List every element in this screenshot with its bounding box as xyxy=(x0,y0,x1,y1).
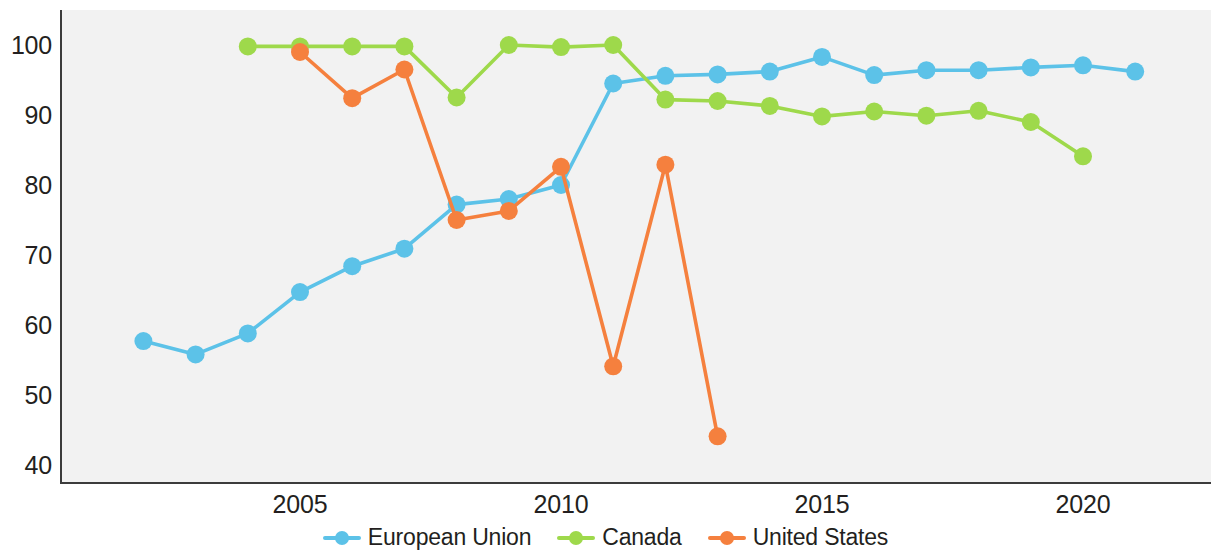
data-point xyxy=(1022,113,1040,131)
data-point xyxy=(343,257,361,275)
legend-item[interactable]: United States xyxy=(708,524,888,551)
data-point xyxy=(343,89,361,107)
data-point xyxy=(709,65,727,83)
line-chart: 100908070605040 European UnionCanadaUnit… xyxy=(0,0,1211,560)
data-point xyxy=(395,37,413,55)
chart-series-layer xyxy=(0,0,1211,560)
series-canada xyxy=(239,36,1092,165)
legend-item[interactable]: Canada xyxy=(557,524,681,551)
series-european-union xyxy=(134,48,1144,364)
data-point xyxy=(970,61,988,79)
data-point xyxy=(1074,147,1092,165)
data-point xyxy=(709,92,727,110)
data-point xyxy=(239,37,257,55)
y-axis-tick-labels: 100908070605040 xyxy=(0,0,52,560)
data-point xyxy=(813,48,831,66)
legend-swatch-icon xyxy=(557,530,595,546)
data-point xyxy=(343,37,361,55)
data-point xyxy=(552,158,570,176)
x-axis-tick-label: 2005 xyxy=(273,490,328,519)
data-point xyxy=(865,66,883,84)
x-axis-line xyxy=(60,482,1211,484)
data-point xyxy=(448,89,466,107)
chart-legend: European UnionCanadaUnited States xyxy=(0,524,1211,551)
x-axis-tick-label: 2015 xyxy=(795,490,850,519)
data-point xyxy=(604,36,622,54)
data-point xyxy=(395,61,413,79)
series-line xyxy=(143,57,1135,355)
data-point xyxy=(604,75,622,93)
data-point xyxy=(656,67,674,85)
data-point xyxy=(1126,63,1144,81)
data-point xyxy=(1074,56,1092,74)
x-axis-tick-label: 2020 xyxy=(1056,490,1111,519)
data-point xyxy=(917,107,935,125)
data-point xyxy=(239,324,257,342)
series-line xyxy=(300,52,718,436)
data-point xyxy=(500,202,518,220)
data-point xyxy=(187,345,205,363)
y-axis-tick-label: 100 xyxy=(2,31,52,60)
y-axis-tick-label: 70 xyxy=(2,241,52,270)
data-point xyxy=(970,102,988,120)
legend-item-label: European Union xyxy=(368,524,531,551)
data-point xyxy=(865,103,883,121)
data-point xyxy=(291,283,309,301)
x-axis-tick-label: 2010 xyxy=(534,490,589,519)
series-group xyxy=(134,36,1144,445)
data-point xyxy=(500,36,518,54)
y-axis-tick-label: 80 xyxy=(2,171,52,200)
legend-item-label: United States xyxy=(753,524,888,551)
data-point xyxy=(656,91,674,109)
legend-item-label: Canada xyxy=(602,524,681,551)
y-axis-tick-label: 40 xyxy=(2,451,52,480)
data-point xyxy=(552,38,570,56)
data-point xyxy=(656,156,674,174)
data-point xyxy=(134,332,152,350)
legend-swatch-icon xyxy=(323,530,361,546)
data-point xyxy=(395,240,413,258)
data-point xyxy=(709,427,727,445)
y-axis-tick-label: 90 xyxy=(2,101,52,130)
data-point xyxy=(1022,58,1040,76)
data-point xyxy=(761,97,779,115)
data-point xyxy=(917,61,935,79)
data-point xyxy=(761,63,779,81)
legend-swatch-icon xyxy=(708,530,746,546)
data-point xyxy=(813,107,831,125)
data-point xyxy=(291,43,309,61)
y-axis-line xyxy=(60,10,62,484)
y-axis-tick-label: 50 xyxy=(2,381,52,410)
data-point xyxy=(448,211,466,229)
legend-item[interactable]: European Union xyxy=(323,524,531,551)
data-point xyxy=(604,357,622,375)
y-axis-tick-label: 60 xyxy=(2,311,52,340)
